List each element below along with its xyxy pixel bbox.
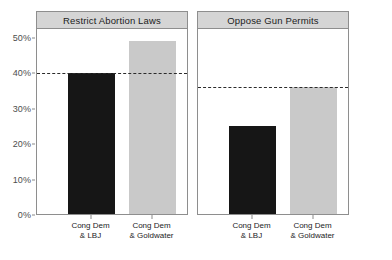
y-tick-mark xyxy=(32,215,35,216)
x-tick-label-line1: Cong Dem xyxy=(71,221,109,230)
y-tick-mark xyxy=(32,144,35,145)
panel-title: Oppose Gun Permits xyxy=(198,12,348,29)
plot-area-right xyxy=(198,29,348,214)
y-axis: 50% 40% 30% 20% 10% 0% xyxy=(0,0,36,260)
y-tick-label: 10% xyxy=(13,175,31,184)
y-tick-mark xyxy=(32,179,35,180)
x-tick-label-line2: & Goldwater xyxy=(129,231,173,241)
y-tick-label: 0% xyxy=(18,211,31,220)
panel-oppose-gun-permits: Oppose Gun Permits xyxy=(197,11,349,215)
y-tick-mark xyxy=(32,73,35,74)
x-tick-label-line1: Cong Dem xyxy=(232,221,270,230)
reference-line xyxy=(37,73,187,74)
bar-cong-dem-goldwater xyxy=(290,87,337,214)
y-tick-label: 50% xyxy=(13,34,31,43)
x-tick-label-line1: Cong Dem xyxy=(293,221,331,230)
x-axis-right: Cong Dem & LBJ Cong Dem & Goldwater xyxy=(197,215,349,260)
x-tick-mark xyxy=(90,215,91,219)
y-tick-label: 40% xyxy=(13,69,31,78)
x-tick-label-cong-dem-lbj: Cong Dem & LBJ xyxy=(232,221,270,241)
panel-restrict-abortion-laws: Restrict Abortion Laws xyxy=(36,11,188,215)
bar-cong-dem-lbj xyxy=(68,73,115,215)
y-tick-mark xyxy=(32,108,35,109)
x-axis-left: Cong Dem & LBJ Cong Dem & Goldwater xyxy=(36,215,188,260)
reference-line xyxy=(198,87,348,88)
x-tick-label-cong-dem-goldwater: Cong Dem & Goldwater xyxy=(129,221,173,241)
x-tick-label-cong-dem-lbj: Cong Dem & LBJ xyxy=(71,221,109,241)
x-tick-mark xyxy=(251,215,252,219)
y-tick-label: 30% xyxy=(13,104,31,113)
bar-cong-dem-goldwater xyxy=(129,41,176,214)
x-tick-label-line2: & LBJ xyxy=(232,231,270,241)
x-tick-label-line1: Cong Dem xyxy=(132,221,170,230)
x-tick-label-line2: & Goldwater xyxy=(290,231,334,241)
x-tick-mark xyxy=(312,215,313,219)
y-tick-mark xyxy=(32,38,35,39)
bar-cong-dem-lbj xyxy=(229,126,276,215)
x-tick-label-cong-dem-goldwater: Cong Dem & Goldwater xyxy=(290,221,334,241)
chart-figure: 50% 40% 30% 20% 10% 0% Restrict Abortion… xyxy=(0,0,392,260)
y-tick-label: 20% xyxy=(13,140,31,149)
plot-area-left xyxy=(37,29,187,214)
x-tick-label-line2: & LBJ xyxy=(71,231,109,241)
panel-title: Restrict Abortion Laws xyxy=(37,12,187,29)
x-tick-mark xyxy=(151,215,152,219)
